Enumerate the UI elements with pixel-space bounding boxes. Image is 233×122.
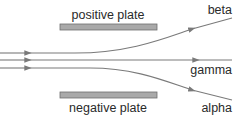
- radiation-deflection-diagram: positive plate negative plate beta gamma…: [0, 0, 233, 122]
- negative-plate: [60, 92, 157, 98]
- beta-path: [0, 18, 232, 53]
- negative-plate-label: negative plate: [69, 101, 147, 115]
- positive-plate-label: positive plate: [72, 8, 145, 22]
- beta-label: beta: [208, 3, 232, 17]
- gamma-label: gamma: [190, 63, 232, 77]
- alpha-label: alpha: [201, 101, 232, 115]
- positive-plate: [60, 24, 157, 30]
